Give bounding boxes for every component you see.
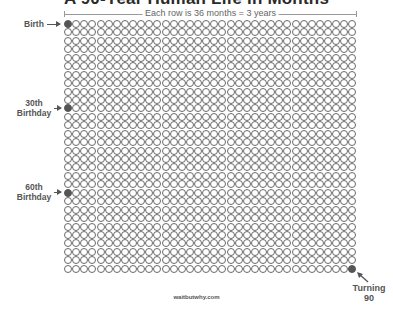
month-dot <box>348 71 356 79</box>
month-dot <box>137 214 145 222</box>
month-dot <box>243 37 251 45</box>
month-dot <box>267 45 275 53</box>
month-dot <box>121 104 129 112</box>
month-dot <box>324 206 332 214</box>
month-dot <box>202 104 210 112</box>
month-dot <box>340 121 348 129</box>
month-dot <box>72 130 80 138</box>
month-dot <box>153 172 161 180</box>
month-dot <box>218 163 226 171</box>
month-dot <box>275 104 283 112</box>
month-dot <box>202 223 210 231</box>
month-dot <box>227 28 235 36</box>
thirtieth-arrow-icon <box>54 108 61 109</box>
month-dot <box>178 147 186 155</box>
month-dot <box>332 180 340 188</box>
month-dot <box>105 265 113 273</box>
month-dot <box>121 71 129 79</box>
month-dot <box>97 79 105 87</box>
month-dot <box>308 147 316 155</box>
month-dot <box>121 45 129 53</box>
month-dot <box>113 130 121 138</box>
month-dot <box>153 62 161 70</box>
month-dot <box>348 180 356 188</box>
month-dot <box>243 113 251 121</box>
month-dot <box>80 37 88 45</box>
month-dot <box>283 121 291 129</box>
month-dot <box>88 121 96 129</box>
month-dot <box>210 104 218 112</box>
month-dot <box>235 62 243 70</box>
month-dot <box>340 265 348 273</box>
month-dot <box>300 197 308 205</box>
month-dot <box>251 223 259 231</box>
month-dot <box>162 197 170 205</box>
birth-arrow-icon <box>47 24 60 25</box>
month-dot <box>145 223 153 231</box>
month-dot <box>283 88 291 96</box>
month-dot <box>292 62 300 70</box>
month-dot <box>72 79 80 87</box>
month-dot <box>80 214 88 222</box>
month-dot <box>308 20 316 28</box>
month-dot <box>202 248 210 256</box>
month-dot <box>162 147 170 155</box>
month-dot <box>316 172 324 180</box>
month-dot <box>308 28 316 36</box>
month-dot <box>292 248 300 256</box>
month-dot <box>178 20 186 28</box>
month-dot <box>251 121 259 129</box>
month-dot <box>324 248 332 256</box>
month-dot <box>170 54 178 62</box>
month-dot <box>243 28 251 36</box>
month-dot <box>72 256 80 264</box>
month-dot <box>64 54 72 62</box>
month-dot <box>259 54 267 62</box>
month-dot <box>308 189 316 197</box>
month-dot <box>340 71 348 79</box>
month-dot <box>202 113 210 121</box>
month-dot <box>97 223 105 231</box>
month-dot <box>259 20 267 28</box>
month-dot <box>105 113 113 121</box>
month-dot <box>267 130 275 138</box>
month-dot <box>153 138 161 146</box>
month-dot <box>113 248 121 256</box>
month-dot <box>324 265 332 273</box>
month-dot <box>308 231 316 239</box>
month-dot <box>121 54 129 62</box>
month-dot <box>348 214 356 222</box>
month-dot <box>235 155 243 163</box>
month-dot <box>88 155 96 163</box>
month-dot <box>186 206 194 214</box>
month-dot <box>348 104 356 112</box>
month-dot <box>267 28 275 36</box>
month-dot <box>202 37 210 45</box>
month-dot <box>275 62 283 70</box>
month-dot <box>300 138 308 146</box>
month-dot <box>153 113 161 121</box>
month-dot <box>186 138 194 146</box>
month-dot <box>129 79 137 87</box>
month-dot <box>316 239 324 247</box>
month-dot <box>153 239 161 247</box>
month-dot <box>129 189 137 197</box>
month-dot <box>235 113 243 121</box>
month-dot <box>129 231 137 239</box>
month-dot <box>300 206 308 214</box>
month-dot <box>129 197 137 205</box>
month-dot <box>251 62 259 70</box>
month-dot <box>283 28 291 36</box>
month-dot <box>137 265 145 273</box>
month-dot <box>145 130 153 138</box>
month-dot <box>251 88 259 96</box>
month-dot <box>316 130 324 138</box>
month-dot <box>283 79 291 87</box>
month-dot <box>267 256 275 264</box>
month-dot <box>332 197 340 205</box>
month-dot <box>121 231 129 239</box>
month-dot <box>153 88 161 96</box>
month-dot <box>283 231 291 239</box>
month-dot <box>218 138 226 146</box>
month-dot <box>332 62 340 70</box>
